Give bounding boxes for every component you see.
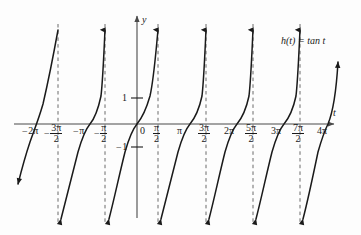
x-tick-label-neg-2pi: −2π	[22, 126, 38, 137]
fraction-7pi-over-2: 7π2	[292, 123, 304, 144]
fraction-denominator: 2	[198, 134, 210, 144]
y-tick-text-neg-one: 1	[122, 141, 127, 152]
y-tick-label-neg-one: −1	[116, 142, 127, 153]
x-tick-label-zero: 0	[140, 126, 145, 136]
x-tick-label-3pi-over-2: 3π2	[198, 123, 210, 144]
fraction-3pi-over-2: 3π2	[50, 123, 62, 144]
tangent-graph-figure: −2π −3π2 −π −π2 0 π2 π 3π2 2π 5π2 3π 7π2…	[0, 0, 361, 235]
x-tick-text-neg-pi: π	[79, 125, 84, 136]
x-tick-label-2pi: 2π	[224, 126, 234, 136]
axes-group	[14, 16, 334, 218]
function-annotation: h(t) = tan t	[281, 36, 325, 46]
x-tick-label-neg-pi-over-2: −π2	[94, 123, 107, 144]
x-tick-label-5pi-over-2: 5π2	[245, 123, 257, 144]
tangent-branch-1	[18, 30, 58, 184]
y-axis-label: y	[142, 15, 146, 25]
fraction-denominator: 2	[50, 134, 62, 144]
fraction-denominator: 2	[292, 134, 304, 144]
y-tick-label-one: 1	[122, 93, 127, 103]
fraction-3pi-over-2: 3π2	[198, 123, 210, 144]
x-tick-label-neg-3pi-over-2: −3π2	[44, 123, 62, 144]
x-tick-text-neg-2pi: 2π	[28, 125, 38, 136]
x-tick-label-3pi: 3π	[271, 126, 281, 136]
fraction-denominator: 2	[100, 134, 107, 144]
x-tick-label-4pi: 4π	[317, 126, 327, 136]
fraction-5pi-over-2: 5π2	[245, 123, 257, 144]
x-tick-label-pi: π	[177, 126, 182, 136]
x-axis-label: t	[333, 108, 336, 118]
x-tick-label-7pi-over-2: 7π2	[292, 123, 304, 144]
fraction-pi-over-2: π2	[100, 123, 107, 144]
tangent-branch-7	[303, 62, 338, 219]
fraction-pi-over-2: π2	[153, 123, 160, 144]
fraction-denominator: 2	[153, 134, 160, 144]
x-tick-label-neg-pi: −π	[73, 126, 84, 137]
fraction-denominator: 2	[245, 134, 257, 144]
x-tick-label-pi-over-2: π2	[153, 123, 160, 144]
